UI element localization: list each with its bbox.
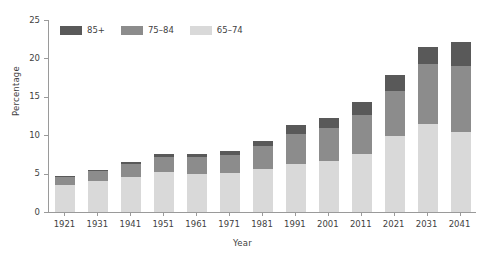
bar-segment — [319, 118, 339, 128]
y-tick-label: 20 — [14, 54, 40, 63]
bar-segment — [253, 146, 273, 169]
x-tick-mark — [328, 212, 329, 216]
bar-segment — [88, 181, 108, 212]
bar-segment — [154, 157, 174, 172]
x-tick-mark — [295, 212, 296, 216]
bar-segment — [55, 185, 75, 212]
bar-column — [55, 176, 75, 212]
bar-segment — [319, 161, 339, 212]
x-tick-mark — [229, 212, 230, 216]
bar-segment — [418, 47, 438, 64]
bar-segment — [385, 75, 405, 90]
bar-column — [121, 162, 141, 212]
bar-column — [187, 154, 207, 212]
bar-column — [418, 47, 438, 212]
y-tick-mark — [44, 20, 48, 21]
bar-segment — [418, 64, 438, 124]
bar-segment — [319, 128, 339, 161]
bar-segment — [187, 157, 207, 173]
x-tick-mark — [427, 212, 428, 216]
x-tick-mark — [394, 212, 395, 216]
bar-segment — [352, 102, 372, 115]
bar-segment — [187, 174, 207, 212]
plot-area: 0510152025 19211931194119511961197119811… — [48, 20, 476, 212]
x-tick-mark — [196, 212, 197, 216]
bar-segment — [451, 42, 471, 67]
bar-column — [319, 118, 339, 212]
bar-column — [220, 151, 240, 212]
bar-segment — [121, 164, 141, 176]
bar-segment — [451, 132, 471, 212]
y-tick-label: 5 — [14, 169, 40, 178]
bar-segment — [88, 171, 108, 180]
stacked-bar-chart: Percentage 85+75–8465–74 0510152025 1921… — [0, 0, 485, 261]
bar-segment — [286, 125, 306, 133]
bar-column — [451, 42, 471, 212]
y-tick-mark — [44, 174, 48, 175]
x-tick-label: 2041 — [440, 220, 480, 229]
bar-segment — [418, 124, 438, 212]
x-tick-mark — [361, 212, 362, 216]
x-axis-title: Year — [0, 238, 485, 248]
bar-column — [88, 170, 108, 212]
bar-segment — [451, 66, 471, 132]
bar-column — [253, 141, 273, 212]
bar-column — [154, 154, 174, 212]
x-tick-mark — [130, 212, 131, 216]
y-tick-mark — [44, 58, 48, 59]
y-tick-label: 15 — [14, 92, 40, 101]
bar-segment — [352, 154, 372, 212]
x-tick-mark — [163, 212, 164, 216]
bar-segment — [286, 164, 306, 212]
bar-segment — [55, 177, 75, 185]
bar-segment — [385, 91, 405, 136]
y-tick-label: 10 — [14, 131, 40, 140]
y-tick-mark — [44, 135, 48, 136]
bar-segment — [220, 155, 240, 173]
x-tick-mark — [64, 212, 65, 216]
bar-segment — [253, 169, 273, 212]
bar-segment — [286, 134, 306, 164]
bar-group — [49, 20, 476, 212]
bar-segment — [121, 177, 141, 212]
y-tick-label: 0 — [14, 208, 40, 217]
bar-segment — [220, 173, 240, 212]
y-tick-label: 25 — [14, 16, 40, 25]
bar-column — [286, 125, 306, 212]
bar-segment — [385, 136, 405, 212]
bar-column — [385, 75, 405, 212]
bar-segment — [154, 172, 174, 212]
y-tick-mark — [44, 97, 48, 98]
x-tick-mark — [97, 212, 98, 216]
bar-column — [352, 102, 372, 212]
bar-segment — [352, 115, 372, 153]
x-tick-mark — [460, 212, 461, 216]
y-tick-mark — [44, 212, 48, 213]
x-tick-mark — [262, 212, 263, 216]
